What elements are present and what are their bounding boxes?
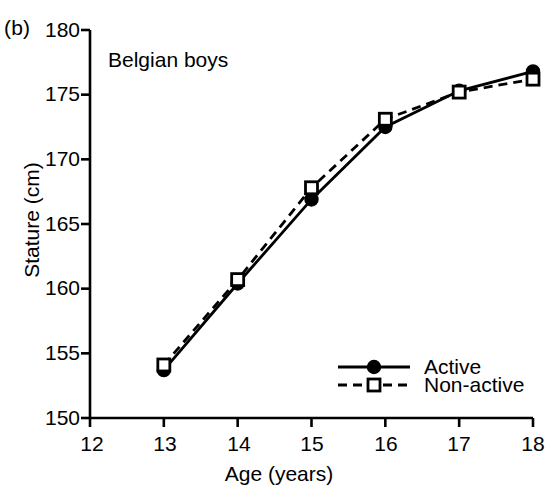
data-series-lines <box>164 71 533 370</box>
figure-panel: (b) Belgian boys Stature (cm) Age (years… <box>0 0 558 492</box>
plot-area <box>0 0 558 492</box>
data-series-markers <box>157 65 539 377</box>
legend-keys <box>338 361 410 391</box>
